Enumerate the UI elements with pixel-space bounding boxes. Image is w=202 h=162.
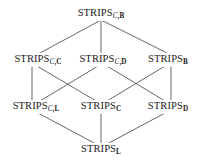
- lattice-node-l: STRIPSL: [80, 143, 122, 157]
- lattice-node-d: STRIPSD: [147, 100, 189, 114]
- node-base-label: STRIPS: [78, 7, 113, 18]
- node-base-label: STRIPS: [81, 100, 116, 111]
- node-subscript: D: [183, 105, 188, 113]
- node-subscript-bold: ,L: [53, 105, 60, 113]
- node-base-label: STRIPS: [79, 53, 114, 64]
- node-subscript: C,L: [48, 105, 60, 113]
- node-subscript: C: [116, 105, 121, 113]
- lattice-node-c-b: STRIPSC,B: [77, 7, 126, 21]
- node-subscript: L: [116, 148, 121, 156]
- lattice-node-b: STRIPSB: [147, 53, 189, 67]
- node-base-label: STRIPS: [81, 143, 116, 154]
- lattice-edge-c-b-to-b: [101, 20, 167, 53]
- node-subscript: C,C: [49, 58, 61, 66]
- node-subscript: C,D: [114, 58, 126, 66]
- node-base-label: STRIPS: [13, 100, 48, 111]
- node-base-label: STRIPS: [14, 53, 49, 64]
- node-subscript-bold: C: [116, 105, 121, 113]
- node-base-label: STRIPS: [148, 53, 183, 64]
- node-base-label: STRIPS: [148, 100, 183, 111]
- lattice-edge-c-b-to-c-c: [40, 20, 101, 53]
- lattice-edge-c-l-to-l: [38, 113, 96, 144]
- lattice-node-c: STRIPSC: [80, 100, 122, 114]
- node-subscript-bold: ,B: [118, 12, 125, 20]
- node-subscript-bold: D: [183, 105, 188, 113]
- node-subscript: C,B: [113, 12, 125, 20]
- lattice-node-c-c: STRIPSC,C: [13, 53, 62, 67]
- node-subscript-bold: B: [183, 58, 188, 66]
- lattice-node-c-d: STRIPSC,D: [78, 53, 127, 67]
- node-subscript-bold: ,D: [119, 58, 126, 66]
- node-subscript: B: [183, 58, 188, 66]
- lattice-edge-c-c-to-c: [37, 66, 96, 101]
- lattice-edges: [0, 0, 202, 162]
- lattice-node-c-l: STRIPSC,L: [12, 100, 61, 114]
- strips-lattice-diagram: STRIPSC,BSTRIPSC,CSTRIPSC,DSTRIPSBSTRIPS…: [0, 0, 202, 162]
- node-subscript-bold: L: [116, 148, 121, 156]
- lattice-edge-d-to-l: [107, 113, 165, 144]
- lattice-edge-c-d-to-c-l: [40, 66, 98, 101]
- node-subscript-bold: ,C: [54, 58, 61, 66]
